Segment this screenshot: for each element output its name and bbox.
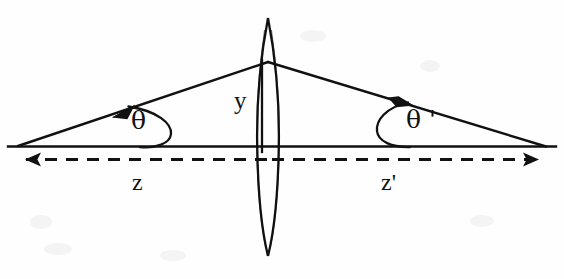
lens-ray-diagram: θ θ ' y z z'	[0, 0, 564, 279]
image-distance-label-z-prime: z'	[381, 170, 396, 194]
lens-element	[257, 18, 280, 256]
object-distance-label-z: z	[132, 170, 143, 194]
diagram-canvas	[0, 0, 564, 279]
angle-label-theta: θ	[131, 108, 146, 133]
angle-label-theta-prime: θ '	[406, 107, 436, 132]
ray-height-label-y: y	[234, 88, 247, 113]
